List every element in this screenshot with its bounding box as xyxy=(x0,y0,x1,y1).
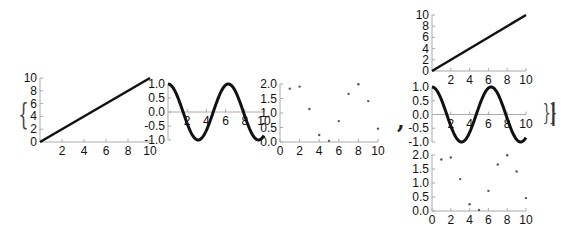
plot-right-scatter: 2.01.51.00.50.00246810 xyxy=(0,0,561,237)
svg-text:0: 0 xyxy=(429,213,436,227)
svg-text:0.5: 0.5 xyxy=(412,190,429,204)
svg-text:10: 10 xyxy=(519,213,533,227)
svg-text:2.0: 2.0 xyxy=(412,148,429,162)
svg-text:0.0: 0.0 xyxy=(412,204,429,218)
svg-text:4: 4 xyxy=(466,213,473,227)
svg-text:8: 8 xyxy=(504,213,511,227)
svg-text:1.0: 1.0 xyxy=(412,176,429,190)
svg-text:6: 6 xyxy=(485,213,492,227)
svg-text:1.5: 1.5 xyxy=(412,162,429,176)
svg-text:2: 2 xyxy=(447,213,454,227)
